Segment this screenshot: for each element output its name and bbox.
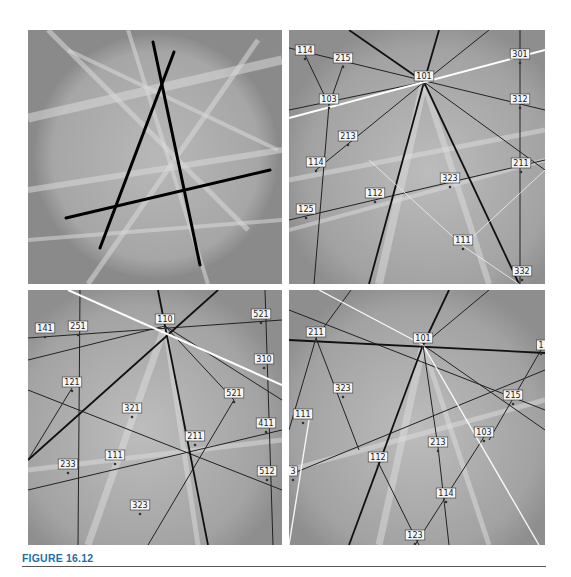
zone-axis-point bbox=[520, 171, 523, 174]
figure-caption: FIGURE 16.12 bbox=[22, 552, 93, 564]
zone-axis-label: 3 bbox=[290, 467, 295, 476]
zone-axis-label: 211 bbox=[187, 432, 202, 441]
zone-axis-label: 213 bbox=[430, 438, 445, 447]
zone-axis-point bbox=[377, 465, 380, 468]
zone-axis-point bbox=[521, 279, 524, 282]
kikuchi-panel-d: 21110113232151112131031123114123 bbox=[289, 290, 545, 545]
zone-axis-point bbox=[437, 450, 440, 453]
zone-axis-label: 121 bbox=[64, 378, 79, 387]
zone-axis-label: 310 bbox=[256, 355, 271, 364]
zone-axis-point bbox=[342, 66, 345, 69]
zone-axis-label: 1 bbox=[538, 341, 543, 350]
zone-axis-label: 521 bbox=[226, 389, 241, 398]
zone-axis-label: 332 bbox=[514, 267, 529, 276]
zone-axis-label: 521 bbox=[253, 310, 268, 319]
zone-axis-label: 211 bbox=[513, 159, 528, 168]
zone-axis-point bbox=[265, 431, 268, 434]
kikuchi-pattern-b: 1142151013011033122131142113231121251113… bbox=[289, 30, 545, 284]
zone-axis-point bbox=[512, 403, 515, 406]
zone-axis-point bbox=[304, 58, 307, 61]
zone-axis-point bbox=[67, 472, 70, 475]
zone-axis-label: 233 bbox=[60, 460, 75, 469]
zone-axis-point bbox=[164, 327, 167, 330]
zone-axis-point bbox=[305, 217, 308, 220]
zone-axis-label: 301 bbox=[512, 50, 527, 59]
kikuchi-panel-a bbox=[28, 30, 282, 284]
zone-axis-label: 112 bbox=[370, 453, 385, 462]
zone-axis-point bbox=[328, 107, 331, 110]
zone-axis-label: 111 bbox=[295, 410, 310, 419]
zone-axis-point bbox=[374, 201, 377, 204]
zone-axis-label: 103 bbox=[321, 95, 336, 104]
zone-axis-point bbox=[540, 353, 543, 356]
zone-axis-label: 323 bbox=[132, 501, 147, 510]
zone-axis-point bbox=[342, 396, 345, 399]
kikuchi-panel-b: 1142151013011033122131142113231121251113… bbox=[289, 30, 545, 284]
zone-axis-point bbox=[233, 401, 236, 404]
zone-axis-point bbox=[44, 336, 47, 339]
zone-axis-label: 512 bbox=[259, 467, 274, 476]
zone-axis-point bbox=[263, 367, 266, 370]
zone-axis-point bbox=[77, 334, 80, 337]
kikuchi-pattern-a bbox=[28, 30, 282, 284]
zone-axis-label: 323 bbox=[335, 384, 350, 393]
zone-axis-label: 411 bbox=[258, 419, 273, 428]
zone-axis-label: 213 bbox=[340, 132, 355, 141]
zone-axis-label: 323 bbox=[442, 174, 457, 183]
zone-axis-label: 211 bbox=[308, 328, 323, 337]
zone-axis-label: 215 bbox=[505, 391, 520, 400]
zone-axis-point bbox=[292, 479, 295, 482]
zone-axis-point bbox=[131, 416, 134, 419]
zone-axis-point bbox=[266, 479, 269, 482]
zone-axis-point bbox=[483, 440, 486, 443]
zone-axis-point bbox=[315, 170, 318, 173]
zone-axis-label: 321 bbox=[124, 404, 139, 413]
zone-axis-point bbox=[423, 84, 426, 87]
zone-axis-label: 123 bbox=[407, 531, 422, 540]
zone-axis-label: 114 bbox=[438, 489, 453, 498]
zone-axis-point bbox=[302, 422, 305, 425]
caption-rule bbox=[22, 566, 546, 567]
zone-axis-point bbox=[347, 144, 350, 147]
zone-axis-point bbox=[449, 186, 452, 189]
zone-axis-label: 114 bbox=[308, 158, 323, 167]
kikuchi-pattern-d: 21110113232151112131031123114123 bbox=[289, 290, 545, 545]
zone-axis-label: 125 bbox=[298, 205, 313, 214]
zone-axis-point bbox=[462, 248, 465, 251]
zone-axis-point bbox=[519, 62, 522, 65]
zone-axis-label: 141 bbox=[37, 324, 52, 333]
zone-axis-label: 101 bbox=[416, 72, 431, 81]
zone-axis-point bbox=[422, 346, 425, 349]
zone-axis-point bbox=[139, 513, 142, 516]
zone-axis-label: 114 bbox=[297, 46, 312, 55]
zone-axis-label: 103 bbox=[476, 428, 491, 437]
zone-axis-label: 112 bbox=[367, 189, 382, 198]
zone-axis-point bbox=[315, 340, 318, 343]
zone-axis-point bbox=[194, 444, 197, 447]
kikuchi-panel-c: 1412511105213101213215212114112331115123… bbox=[28, 290, 282, 545]
zone-axis-label: 101 bbox=[415, 334, 430, 343]
zone-axis-point bbox=[114, 463, 117, 466]
zone-axis-label: 111 bbox=[455, 236, 470, 245]
zone-axis-label: 111 bbox=[107, 451, 122, 460]
zone-axis-point bbox=[71, 390, 74, 393]
zone-axis-point bbox=[519, 107, 522, 110]
zone-axis-point bbox=[445, 501, 448, 504]
kikuchi-pattern-c: 1412511105213101213215212114112331115123… bbox=[28, 290, 282, 545]
zone-axis-label: 215 bbox=[335, 54, 350, 63]
zone-axis-label: 251 bbox=[70, 322, 85, 331]
zone-axis-label: 312 bbox=[512, 95, 527, 104]
zone-axis-label: 110 bbox=[157, 315, 172, 324]
zone-axis-point bbox=[260, 322, 263, 325]
